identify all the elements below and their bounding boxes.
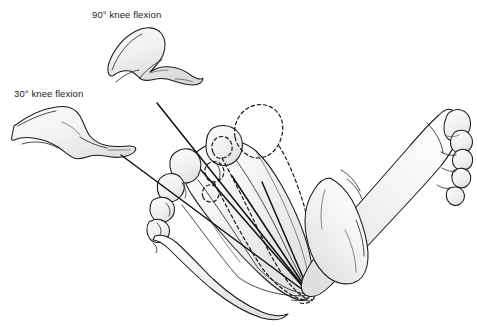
foot-right-toe-5 — [446, 187, 464, 205]
dashed-toe-major — [235, 105, 283, 158]
foot-right-ankle-contour-1 — [341, 170, 360, 191]
leg-30-silhouette — [12, 106, 136, 158]
illustration-canvas: 90° knee flexion 30° knee flexion — [0, 0, 477, 327]
leg-diagram-30-degrees — [12, 106, 136, 158]
label-90-knee-flexion: 90° knee flexion — [92, 9, 161, 20]
foot-left-toe-4 — [150, 197, 175, 222]
foot-right-plantar-view — [301, 109, 472, 296]
foot-left-toe-5-crease — [153, 243, 157, 253]
leg-90-silhouette — [108, 28, 203, 85]
figure-root: 90° knee flexion 30° knee flexion — [0, 0, 477, 327]
label-30-knee-flexion: 30° knee flexion — [14, 88, 83, 99]
leg-diagram-90-degrees — [108, 28, 203, 85]
foot-right-toe-3 — [453, 149, 473, 170]
foot-right-toe-crease-c — [437, 185, 450, 188]
